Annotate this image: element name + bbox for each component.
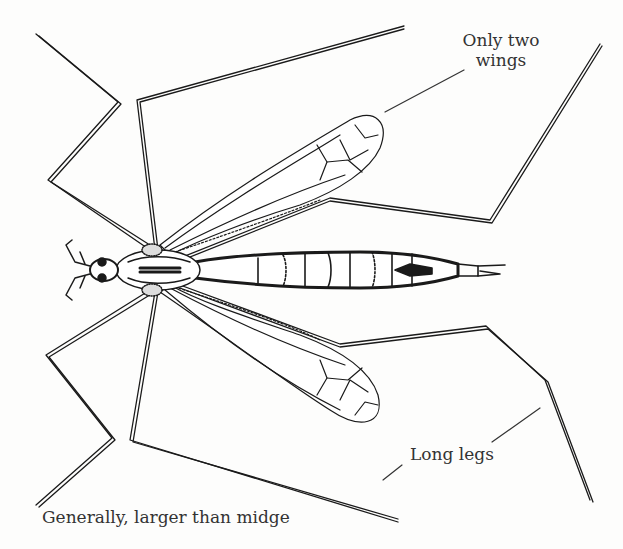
annotation-long-legs: Long legs	[410, 444, 494, 464]
lower-wing	[160, 285, 379, 422]
upper-wing	[160, 116, 383, 255]
annotation-only-two-wings: Only two wings	[441, 30, 561, 70]
legs-leader-line-lower	[383, 465, 402, 480]
annotation-size: Generally, larger than midge	[42, 507, 290, 527]
crane-fly-illustration	[0, 0, 623, 549]
wings-leader-line	[385, 70, 464, 112]
abdomen	[195, 252, 505, 288]
crane-fly-diagram: Only two wings Long legs Generally, larg…	[0, 0, 623, 549]
annotation-wings-line2: wings	[441, 50, 561, 70]
annotation-wings-line1: Only two	[441, 30, 561, 50]
legs-leader-line-upper	[492, 408, 540, 442]
